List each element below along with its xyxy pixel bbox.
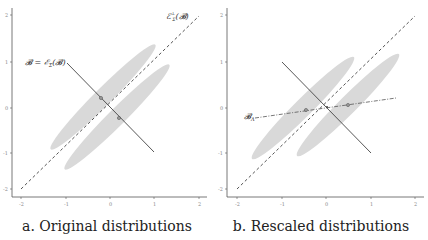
perp-dashed-line [21, 16, 199, 189]
caption-b: b. Rescaled distributions [214, 218, 428, 234]
x-tick-label: -1 [64, 201, 69, 207]
x-tick-label: -2 [19, 201, 24, 207]
x-tick-label: 1 [153, 201, 156, 207]
b-lambda-dashdot-line [255, 98, 396, 118]
x-tick-label: 0 [109, 201, 112, 207]
x-tick-label: -1 [280, 201, 285, 207]
panel-rescaled-distributions: 2 1 0 -1 -2 -2 -1 0 1 2 𝓑Λ b. Rescaled d… [214, 0, 428, 240]
intersection-point [326, 106, 328, 108]
panel-original-distributions: 2 1 0 -1 -2 -2 -1 0 1 2 𝓑 = ℰΣ(𝓑) ℰ⊥Σ(𝓑)… [0, 0, 214, 240]
diagonal-dashed-line [237, 16, 415, 189]
b-lambda-label: 𝓑Λ [244, 112, 255, 122]
mean-marker-2 [346, 103, 349, 106]
x-tick-label: -2 [235, 201, 240, 207]
caption-a: a. Original distributions [0, 218, 214, 234]
b-solid-line [67, 63, 154, 152]
y-tick-label: 0 [5, 105, 8, 111]
y-tick-label: 2 [5, 12, 8, 18]
mean-marker-2 [117, 116, 120, 119]
y-tick-label: 0 [220, 105, 223, 111]
x-tick-label: 2 [198, 201, 201, 207]
y-tick-label: -1 [3, 150, 8, 156]
chart-rescaled: 2 1 0 -1 -2 -2 -1 0 1 2 𝓑Λ [214, 0, 428, 212]
x-tick-label: 1 [370, 201, 373, 207]
mean-marker-1 [99, 96, 102, 99]
b-equals-e-label: 𝓑 = ℰΣ(𝓑) [25, 58, 66, 68]
y-tick-label: -2 [218, 186, 223, 192]
x-tick-label: 0 [325, 201, 328, 207]
y-tick-label: 1 [220, 59, 223, 65]
y-tick-label: 1 [5, 59, 8, 65]
y-tick-label: -2 [3, 186, 8, 192]
y-tick-label: 2 [220, 12, 223, 18]
x-tick-label: 2 [414, 201, 417, 207]
mean-marker-1 [304, 108, 307, 111]
chart-original: 2 1 0 -1 -2 -2 -1 0 1 2 𝓑 = ℰΣ(𝓑) ℰ⊥Σ(𝓑) [0, 0, 214, 212]
e-perp-label: ℰ⊥Σ(𝓑) [166, 11, 189, 22]
y-tick-label: -1 [218, 150, 223, 156]
